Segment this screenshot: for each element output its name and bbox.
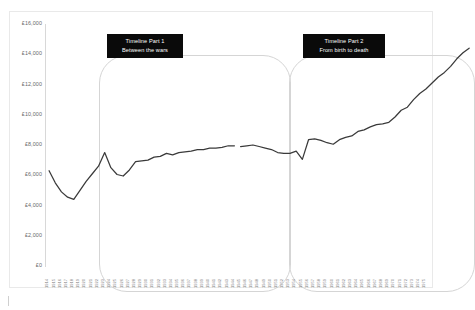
x-tick-label: 1968 <box>379 279 383 288</box>
x-tick-label: 1929 <box>138 279 142 288</box>
x-tick-label: 1958 <box>317 279 321 288</box>
x-tick-label: 1945 <box>237 279 241 288</box>
callout-2-title: Timeline Part 2 <box>310 37 378 46</box>
x-tick-label: 1956 <box>305 279 309 288</box>
x-tick-label: 1937 <box>187 279 191 288</box>
y-axis-tick-labels: £16,000£14,000£12,000£10,000£8,000£6,000… <box>0 0 42 310</box>
y-tick-label: £4,000 <box>25 203 42 208</box>
x-tick-label: 1927 <box>126 279 130 288</box>
x-tick-label: 1970 <box>391 279 395 288</box>
x-tick-label: 1952 <box>280 279 284 288</box>
callout-1-subtitle: Between the wars <box>114 46 176 55</box>
x-tick-label: 1918 <box>70 279 74 288</box>
x-tick-label: 1930 <box>144 279 148 288</box>
x-tick-label: 1942 <box>218 279 222 288</box>
x-tick-label: 1932 <box>156 279 160 288</box>
y-tick-label: £0 <box>36 263 42 268</box>
x-tick-label: 1957 <box>311 279 315 288</box>
callout-1-title: Timeline Part 1 <box>114 37 176 46</box>
x-tick-label: 1919 <box>76 279 80 288</box>
x-tick-label: 1964 <box>354 279 358 288</box>
x-tick-label: 1975 <box>422 279 426 288</box>
y-tick-label: £12,000 <box>22 82 42 87</box>
x-tick-label: 1943 <box>224 279 228 288</box>
x-tick-label: 1963 <box>348 279 352 288</box>
x-tick-label: 1974 <box>416 279 420 288</box>
x-tick-label: 1946 <box>243 279 247 288</box>
x-tick-label: 1926 <box>119 279 123 288</box>
x-tick-label: 1967 <box>373 279 377 288</box>
x-tick-label: 1925 <box>113 279 117 288</box>
x-tick-label: 1940 <box>206 279 210 288</box>
x-tick-label: 1934 <box>169 279 173 288</box>
x-tick-label: 1950 <box>268 279 272 288</box>
series-segment <box>49 146 234 200</box>
x-tick-label: 1944 <box>231 279 235 288</box>
page-caption <box>6 296 436 308</box>
x-tick-label: 1922 <box>95 279 99 288</box>
x-tick-label: 1965 <box>360 279 364 288</box>
x-tick-label: 1920 <box>82 279 86 288</box>
annotation-callout-part-2: Timeline Part 2 From birth to death <box>303 34 385 58</box>
y-tick-label: £6,000 <box>25 173 42 178</box>
x-tick-label: 1961 <box>336 279 340 288</box>
x-tick-label: 1973 <box>410 279 414 288</box>
x-tick-label: 1972 <box>404 279 408 288</box>
x-tick-label: 1935 <box>175 279 179 288</box>
x-tick-label: 1960 <box>329 279 333 288</box>
x-tick-label: 1966 <box>367 279 371 288</box>
annotation-callout-part-1: Timeline Part 1 Between the wars <box>107 34 183 58</box>
x-tick-label: 1969 <box>385 279 389 288</box>
callout-2-subtitle: From birth to death <box>310 46 378 55</box>
x-tick-label: 1933 <box>163 279 167 288</box>
x-tick-label: 1951 <box>274 279 278 288</box>
y-tick-label: £16,000 <box>22 21 42 26</box>
x-tick-label: 1953 <box>286 279 290 288</box>
x-tick-label: 1928 <box>132 279 136 288</box>
x-tick-label: 1924 <box>107 279 111 288</box>
x-axis-tick-labels: 1914191519161917191819191920192119221923… <box>46 266 429 288</box>
y-tick-label: £14,000 <box>22 52 42 57</box>
x-tick-label: 1959 <box>323 279 327 288</box>
x-tick-label: 1949 <box>262 279 266 288</box>
x-tick-label: 1941 <box>212 279 216 288</box>
x-tick-label: 1923 <box>101 279 105 288</box>
x-tick-label: 1948 <box>255 279 259 288</box>
x-tick-label: 1947 <box>249 279 253 288</box>
data-series-line <box>46 24 429 266</box>
x-tick-label: 1916 <box>58 279 62 288</box>
y-tick-label: £2,000 <box>25 233 42 238</box>
x-tick-label: 1954 <box>292 279 296 288</box>
x-tick-label: 1955 <box>299 279 303 288</box>
x-tick-label: 1921 <box>89 279 93 288</box>
x-tick-label: 1914 <box>45 279 49 288</box>
x-tick-label: 1931 <box>150 279 154 288</box>
x-tick-label: 1939 <box>200 279 204 288</box>
x-tick-label: 1917 <box>64 279 68 288</box>
y-tick-label: £10,000 <box>22 112 42 117</box>
x-tick-label: 1915 <box>51 279 55 288</box>
x-tick-label: 1962 <box>342 279 346 288</box>
x-tick-label: 1971 <box>397 279 401 288</box>
x-tick-label: 1936 <box>181 279 185 288</box>
x-tick-label: 1938 <box>194 279 198 288</box>
y-tick-label: £8,000 <box>25 142 42 147</box>
